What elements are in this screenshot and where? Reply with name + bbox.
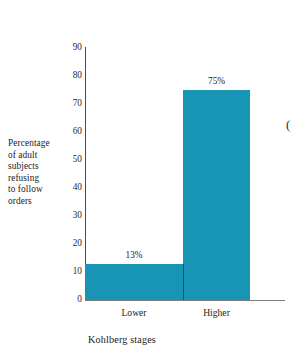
y-tick-50: 50 (60, 155, 82, 164)
bar-divider (183, 264, 184, 300)
y-tick-60: 60 (60, 127, 82, 136)
x-axis-spine (85, 300, 285, 301)
bar-lower[interactable] (85, 264, 183, 300)
category-label-higher: Higher (203, 307, 230, 318)
y-tick-70: 70 (60, 99, 82, 108)
category-label-lower: Lower (121, 307, 146, 318)
x-axis-title: Kohlberg stages (0, 334, 292, 346)
y-tick-10: 10 (60, 267, 82, 276)
y-tick-90: 90 (60, 43, 82, 52)
y-tick-20: 20 (60, 239, 82, 248)
bar-value-higher: 75% (208, 77, 225, 86)
plot-area (85, 48, 250, 300)
y-axis-tick-labels: 0102030405060708090 (58, 0, 82, 359)
bar-chart-figure: Percentage of adult subjects refusing to… (0, 0, 292, 359)
y-tick-30: 30 (60, 211, 82, 220)
y-tick-40: 40 (60, 183, 82, 192)
y-tick-0: 0 (60, 295, 82, 304)
y-tick-80: 80 (60, 71, 82, 80)
bar-higher[interactable] (183, 90, 250, 300)
x-axis-title-text: Kohlberg stages (88, 334, 156, 346)
bar-value-lower: 13% (125, 251, 142, 260)
margin-glyph-fragment: ( (286, 118, 292, 132)
